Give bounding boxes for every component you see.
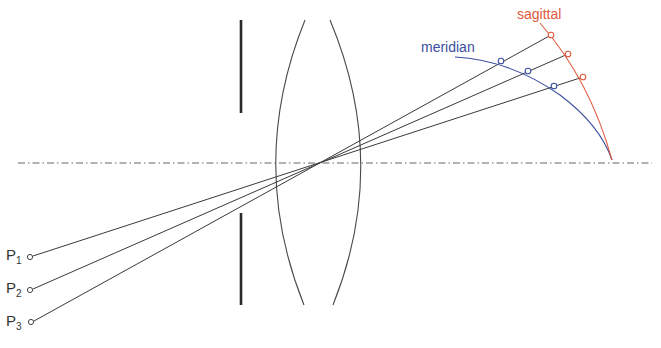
point-p3-marker <box>28 319 33 324</box>
sagittal-point-3 <box>580 74 586 80</box>
meridian-label: meridian <box>421 39 475 55</box>
ray-p2 <box>33 54 568 289</box>
point-p1-marker <box>27 254 32 259</box>
meridian-point-3 <box>551 83 557 89</box>
point-p1-label: P1 <box>6 246 22 266</box>
ray-p1 <box>33 77 583 256</box>
sagittal-curve <box>540 23 612 160</box>
astigmatism-diagram: meridian sagittal P1 P2 P3 <box>0 0 661 348</box>
point-p3-label: P3 <box>6 312 22 332</box>
point-p2-label: P2 <box>6 279 22 299</box>
point-p2-marker <box>27 287 32 292</box>
sagittal-point-1 <box>548 32 554 38</box>
ray-p3 <box>34 35 551 321</box>
sagittal-point-2 <box>565 51 571 57</box>
meridian-point-1 <box>498 58 504 64</box>
meridian-curve <box>455 57 612 160</box>
sagittal-label: sagittal <box>517 6 561 22</box>
meridian-point-2 <box>525 68 531 74</box>
object-points: P1 P2 P3 <box>6 246 34 332</box>
rays <box>33 35 583 321</box>
